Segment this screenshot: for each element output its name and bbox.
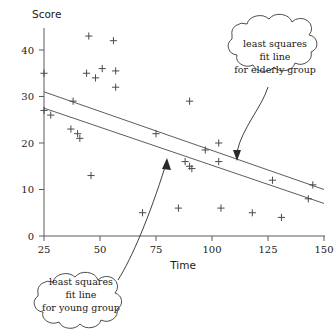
x-tick-25: 25: [38, 236, 51, 255]
data-point-marker: [175, 205, 182, 212]
y-tick-label-40: 40: [21, 45, 34, 56]
fit-line-young: [44, 108, 324, 203]
y-tick-label-0: 0: [28, 231, 34, 242]
data-point-marker: [112, 84, 119, 91]
y-tick-label-30: 30: [21, 91, 34, 102]
x-axis-ticks: 25 50 75 100 125 150: [38, 236, 334, 255]
data-point-marker: [99, 65, 106, 72]
data-point-marker: [40, 107, 47, 114]
x-tick-100: 100: [202, 236, 221, 255]
annotation-elderly-arrowhead: [233, 150, 241, 161]
data-point-marker: [269, 177, 276, 184]
x-tick-50: 50: [94, 236, 107, 255]
data-point-marker: [186, 98, 193, 105]
annotation-elderly-line3: for elderly group: [234, 64, 316, 75]
y-tick-label-10: 10: [21, 184, 34, 195]
data-point-marker: [85, 32, 92, 39]
data-point-marker: [249, 209, 256, 216]
data-point-marker: [110, 37, 117, 44]
annotation-young-leader: [118, 167, 165, 280]
annotation-young-line1: least squares: [49, 276, 113, 287]
fit-line-elderly: [44, 92, 324, 190]
y-axis-ticks: 0 10 20 30 40: [21, 45, 44, 242]
plot-canvas: Score 0 10 20 30 40: [0, 0, 336, 331]
data-point-marker: [139, 209, 146, 216]
annotation-young-arrowhead: [162, 158, 171, 170]
x-tick-label-100: 100: [202, 244, 221, 255]
y-tick-10: 10: [21, 184, 44, 195]
y-tick-30: 30: [21, 91, 44, 102]
annotation-elderly-line2: fit line: [260, 51, 291, 62]
annotation-elderly-group: least squares fit line for elderly group: [228, 14, 317, 161]
x-axis-title: Time: [169, 259, 196, 271]
y-tick-40: 40: [21, 45, 44, 56]
x-tick-label-25: 25: [38, 244, 51, 255]
data-point-marker: [67, 125, 74, 132]
data-point-marker: [40, 70, 47, 77]
data-point-marker: [215, 158, 222, 165]
x-tick-label-50: 50: [94, 244, 107, 255]
x-tick-75: 75: [150, 236, 163, 255]
annotation-elderly-leader: [237, 87, 268, 152]
data-point-marker: [47, 112, 54, 119]
x-tick-125: 125: [258, 236, 277, 255]
annotation-young-line2: fit line: [66, 289, 97, 300]
data-point-marker: [83, 70, 90, 77]
annotation-young-line3: for young group: [42, 302, 120, 313]
data-point-marker: [87, 172, 94, 179]
y-tick-0: 0: [28, 231, 44, 242]
data-point-marker: [92, 74, 99, 81]
y-tick-20: 20: [21, 138, 44, 149]
x-tick-label-75: 75: [150, 244, 163, 255]
data-point-marker: [182, 158, 189, 165]
x-tick-150: 150: [314, 236, 333, 255]
data-point-marker: [217, 205, 224, 212]
data-point-marker: [278, 214, 285, 221]
x-tick-label-150: 150: [314, 244, 333, 255]
y-tick-label-20: 20: [21, 138, 34, 149]
data-point-marker: [112, 67, 119, 74]
fit-lines-layer: [44, 92, 324, 204]
annotation-elderly-line1: least squares: [243, 38, 307, 49]
scatter-plot-figure: Score 0 10 20 30 40: [0, 0, 336, 331]
x-tick-label-125: 125: [258, 244, 277, 255]
data-point-marker: [215, 139, 222, 146]
y-axis-title: Score: [32, 8, 61, 20]
